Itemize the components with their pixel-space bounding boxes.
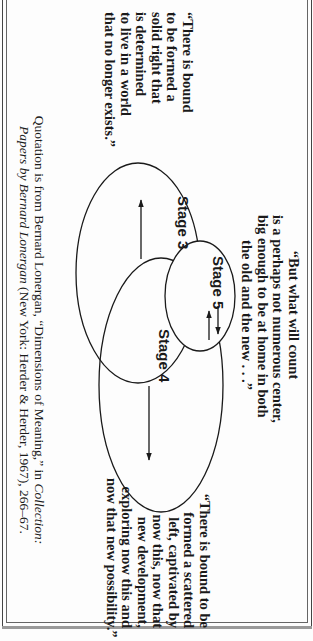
citation-line-1: Quotation is from Bernard Lonergan, “Dim… xyxy=(32,30,47,630)
citation-text: Quotation is from Bernard Lonergan, “Dim… xyxy=(32,116,47,484)
citation-publisher: (New York: Herder & Herder, 1967), 266–6… xyxy=(17,284,32,534)
stage4-label: Stage 4 xyxy=(156,329,173,383)
rotated-page: “There is boundto be formed asolid right… xyxy=(0,0,313,641)
stage3-label: Stage 3 xyxy=(175,196,192,249)
citation-title: Collection: xyxy=(32,483,47,544)
citation: Quotation is from Bernard Lonergan, “Dim… xyxy=(17,30,47,630)
citation-line-2: Papers by Bernard Lonergan (New York: He… xyxy=(17,30,32,630)
citation-book-title: Papers by Bernard Lonergan xyxy=(17,126,32,284)
stage5-label: Stage 5 xyxy=(210,256,227,309)
